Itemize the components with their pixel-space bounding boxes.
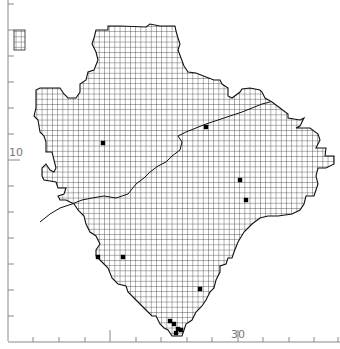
record-dot — [174, 331, 178, 335]
record-dot — [244, 198, 248, 202]
county-grid — [0, 0, 340, 349]
island-inset-grid — [14, 30, 25, 50]
left-axis-label: 10 — [9, 146, 23, 159]
record-dot — [179, 328, 183, 332]
bottom-axis-label: 30 — [231, 328, 245, 341]
record-dot — [168, 319, 172, 323]
distribution-map: 10 30 — [0, 0, 340, 349]
left-axis — [8, 0, 20, 341]
record-dot — [96, 255, 100, 259]
record-dot — [198, 287, 202, 291]
record-dot — [121, 255, 125, 259]
record-dot — [238, 178, 242, 182]
record-dot — [204, 125, 208, 129]
record-dot — [101, 141, 105, 145]
record-dot — [172, 322, 176, 326]
